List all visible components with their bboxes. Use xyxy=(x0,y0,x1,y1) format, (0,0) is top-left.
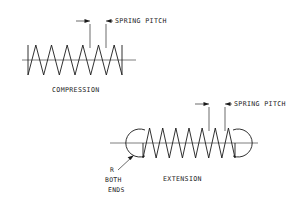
compression-spring-group: SPRING PITCH COMPRESSION xyxy=(22,17,167,94)
extension-spring-group: SPRING PITCH EXTENSION R BOTH ENDS xyxy=(105,100,286,194)
extension-pitch-arrow-left xyxy=(195,102,209,106)
diagram-canvas: SPRING PITCH COMPRESSION xyxy=(0,0,305,210)
hook-radius-note-line-3: ENDS xyxy=(108,186,125,194)
spring-symbols-diagram: SPRING PITCH COMPRESSION xyxy=(0,0,305,210)
extension-label: EXTENSION xyxy=(163,175,202,183)
compression-pitch-arrow-left xyxy=(76,19,90,23)
hook-radius-leader-line xyxy=(118,155,134,170)
compression-pitch-label: SPRING PITCH xyxy=(115,17,167,25)
compression-pitch-arrow-right xyxy=(106,19,113,23)
hook-radius-note-line-2: BOTH xyxy=(105,176,122,184)
extension-pitch-label: SPRING PITCH xyxy=(234,100,286,108)
compression-label: COMPRESSION xyxy=(52,86,100,94)
hook-radius-note-line-1: R xyxy=(110,166,114,174)
extension-pitch-arrow-right xyxy=(225,102,232,106)
